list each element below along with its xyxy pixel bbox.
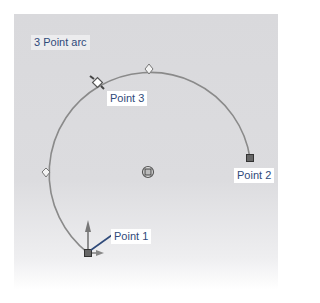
point-3-label: Point 3 (107, 91, 147, 106)
point-2-endpoint-icon[interactable] (247, 155, 254, 162)
sketch-title-label: 3 Point arc (31, 35, 90, 50)
point-3-handle-icon[interactable] (90, 76, 104, 89)
arc-center-point-icon[interactable] (143, 167, 154, 178)
three-point-arc[interactable] (49, 72, 250, 253)
point-1-label: Point 1 (111, 229, 151, 244)
point-2-label: Point 2 (234, 168, 274, 183)
point-1-leader-line (91, 235, 112, 250)
point-1-endpoint-icon[interactable] (85, 250, 92, 257)
